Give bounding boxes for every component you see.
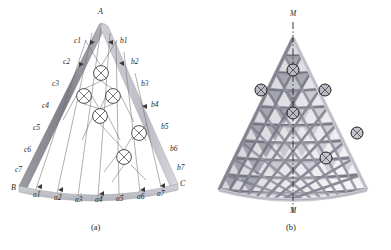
label-b1: b1 [120,37,128,45]
ring-node-5 [351,127,363,139]
ring-node-2 [255,84,267,96]
label-c3: c3 [52,80,59,88]
edge-band-left-AB [19,23,105,188]
ring-node-6 [320,152,332,164]
cross-node-3 [106,89,121,104]
ring-node-1 [287,64,299,76]
label-a2: a2 [54,194,62,202]
cross-node-4 [93,109,108,124]
label-c4: c4 [42,102,49,110]
panel-a: A B C c1 c2 c3 c4 c5 c6 c7 b1 b2 b3 b4 b… [0,0,196,250]
cross-node-5 [132,126,147,141]
label-corner-A: A [98,8,103,16]
label-b4: b4 [151,101,159,109]
label-a1: a1 [33,191,41,199]
label-b2: b2 [131,58,139,66]
figure-root: A B C c1 c2 c3 c4 c5 c6 c7 b1 b2 b3 b4 b… [0,0,391,250]
label-c5: c5 [33,124,40,132]
label-section-M-top: M [290,9,296,18]
label-a5: a5 [116,195,124,203]
label-c6: c6 [24,146,31,154]
label-a4: a4 [95,196,103,204]
cross-node-6 [117,150,132,165]
caption-panel-a: (a) [91,222,100,232]
label-a7: a7 [157,190,165,198]
label-c1: c1 [74,37,81,45]
caption-panel-b: (b) [286,222,296,232]
label-c2: c2 [63,58,70,66]
label-corner-C: C [180,180,185,188]
ring-node-3 [319,84,331,96]
label-c7: c7 [15,166,22,174]
cross-node-1 [94,66,109,81]
label-b3: b3 [141,80,149,88]
label-a3: a3 [75,196,83,204]
label-section-M-bottom: M [290,206,296,215]
label-a6: a6 [137,193,145,201]
cross-node-markers [77,66,147,165]
label-b6: b6 [170,145,178,153]
label-b5: b5 [161,123,169,131]
cross-node-2 [77,89,92,104]
label-b7: b7 [177,164,185,172]
ring-node-4 [287,107,299,119]
label-corner-B: B [11,184,16,192]
panel-b: M M (b) [195,0,391,250]
